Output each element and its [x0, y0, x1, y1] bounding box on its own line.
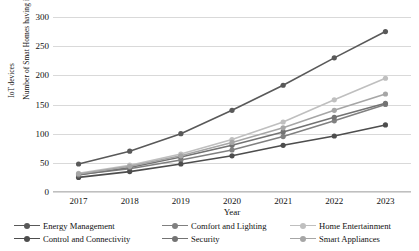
data-point	[76, 161, 81, 166]
x-axis-tick-label: 2017	[70, 196, 88, 206]
legend-item[interactable]: Home Entertainment	[290, 221, 409, 231]
legend-label: Security	[191, 234, 220, 244]
x-axis-tick-label: 2022	[325, 196, 343, 206]
data-point	[281, 83, 286, 88]
data-point	[229, 140, 234, 145]
legend-item[interactable]: Smart Appliances	[290, 234, 409, 244]
legend-label: Smart Appliances	[319, 234, 380, 244]
legend-marker-icon	[290, 222, 316, 230]
data-point	[178, 153, 183, 158]
legend-label: Control and Connectivity	[43, 234, 130, 244]
x-axis-tick-label: 2018	[121, 196, 139, 206]
legend-marker-icon	[14, 235, 40, 243]
data-point	[229, 108, 234, 113]
legend-label: Comfort and Lighting	[191, 221, 266, 231]
data-point	[332, 133, 337, 138]
data-point	[178, 161, 183, 166]
gridline	[53, 192, 411, 193]
data-point	[383, 76, 388, 81]
series-line	[79, 94, 386, 174]
data-point	[383, 29, 388, 34]
y-axis-tick-label: 200	[36, 70, 50, 80]
data-point	[383, 91, 388, 96]
plot-area: 050100150200250300 201720182019202020212…	[53, 17, 411, 192]
data-point	[281, 134, 286, 139]
legend-item[interactable]: Control and Connectivity	[14, 234, 162, 244]
chart-legend: Energy ManagementComfort and LightingHom…	[14, 219, 409, 245]
y-axis-tick-label: 150	[36, 100, 50, 110]
data-point	[281, 143, 286, 148]
data-point	[332, 97, 337, 102]
legend-label: Home Entertainment	[319, 221, 391, 231]
data-point	[383, 122, 388, 127]
legend-item[interactable]: Comfort and Lighting	[162, 221, 290, 231]
legend-item[interactable]: Security	[162, 234, 290, 244]
series-lines	[53, 17, 411, 192]
legend-marker-icon	[14, 222, 40, 230]
x-axis-tick-label: 2020	[223, 196, 241, 206]
series-line	[79, 78, 386, 173]
data-point	[76, 171, 81, 176]
x-axis-title: Year	[53, 207, 411, 217]
y-axis-title-line2: IoT devices	[7, 46, 16, 116]
y-axis-tick-label: 300	[36, 12, 50, 22]
y-axis-tick-label: 0	[45, 187, 50, 197]
line-chart: Number of Smat Homes having implemented …	[0, 0, 419, 251]
data-point	[332, 108, 337, 113]
data-point	[178, 131, 183, 136]
y-axis-tick-label: 250	[36, 41, 50, 51]
data-point	[383, 101, 388, 106]
data-point	[127, 164, 132, 169]
data-point	[229, 147, 234, 152]
legend-marker-icon	[162, 222, 188, 230]
x-axis-tick-label: 2023	[376, 196, 394, 206]
y-axis-tick-label: 100	[36, 129, 50, 139]
data-point	[281, 125, 286, 130]
y-axis-tick-label: 50	[40, 158, 49, 168]
x-axis-tick-label: 2019	[172, 196, 190, 206]
data-point	[281, 119, 286, 124]
data-point	[332, 115, 337, 120]
data-point	[127, 149, 132, 154]
y-axis-title-line1: Number of Smat Homes having implemented	[22, 0, 31, 116]
legend-label: Energy Management	[43, 221, 115, 231]
legend-marker-icon	[290, 235, 316, 243]
data-point	[229, 153, 234, 158]
x-axis-tick-label: 2021	[274, 196, 292, 206]
data-point	[332, 55, 337, 60]
legend-item[interactable]: Energy Management	[14, 221, 162, 231]
legend-marker-icon	[162, 235, 188, 243]
series-home-entertainment	[76, 76, 388, 176]
